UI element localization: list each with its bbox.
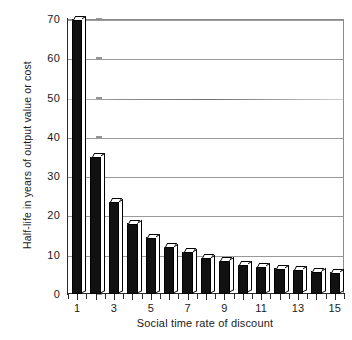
bar-side-face — [340, 269, 344, 293]
y-tick-label: 60 — [34, 52, 60, 64]
x-tick-mark-minor — [86, 294, 87, 299]
x-tick-mark-minor — [234, 294, 235, 299]
bar-front-face — [274, 268, 284, 294]
bar-side-face — [211, 255, 215, 293]
x-tick-mark — [261, 294, 262, 300]
bar-front-face — [90, 157, 100, 295]
bar-side-face — [248, 261, 252, 293]
x-tick-mark — [224, 294, 225, 300]
x-tick-mark — [132, 294, 133, 300]
y-tick-label: 20 — [34, 209, 60, 221]
x-tick-mark-minor — [289, 294, 290, 299]
x-tick-mark — [188, 294, 189, 300]
bar-side-face — [193, 249, 197, 293]
bar-series — [68, 19, 344, 294]
x-tick-mark — [280, 294, 281, 300]
bar-front-face — [219, 261, 229, 294]
bar-front-face — [293, 270, 303, 294]
bar-front-face — [146, 237, 156, 294]
bar-front-face — [311, 271, 321, 294]
x-tick-mark-minor — [307, 294, 308, 299]
bar — [164, 247, 174, 294]
y-tick-label: 0 — [34, 288, 60, 300]
bar-side-face — [322, 268, 326, 293]
x-tick-label: 5 — [148, 302, 154, 314]
x-tick-mark-minor — [105, 294, 106, 299]
x-tick-mark-minor — [215, 294, 216, 299]
x-tick-mark-minor — [68, 294, 69, 299]
bar-side-face — [101, 153, 105, 293]
x-tick-mark-minor — [326, 294, 327, 299]
bar-side-face — [230, 257, 234, 293]
bar-side-face — [82, 16, 86, 293]
x-tick-mark-minor — [142, 294, 143, 299]
bar — [109, 202, 119, 294]
bar — [90, 157, 100, 295]
x-axis-tick-marks — [68, 294, 348, 302]
x-tick-label: 13 — [292, 302, 305, 314]
bar-front-face — [182, 252, 192, 294]
bar — [127, 223, 137, 294]
y-tick-label: 50 — [34, 92, 60, 104]
x-tick-mark — [243, 294, 244, 300]
bar — [256, 267, 266, 295]
bar-front-face — [109, 202, 119, 294]
bar — [201, 258, 211, 294]
bar-side-face — [303, 266, 307, 293]
x-tick-mark — [316, 294, 317, 300]
x-tick-mark-minor — [197, 294, 198, 299]
chart-figure: Half-life in years of output value or co… — [0, 0, 352, 340]
bar-side-face — [156, 234, 160, 293]
bar-front-face — [201, 258, 211, 294]
bar-front-face — [72, 19, 82, 294]
x-tick-mark — [114, 294, 115, 300]
x-tick-mark — [169, 294, 170, 300]
x-tick-mark — [298, 294, 299, 300]
bar — [274, 268, 284, 294]
x-tick-mark — [151, 294, 152, 300]
x-tick-label: 9 — [221, 302, 227, 314]
x-tick-mark-minor — [344, 294, 345, 299]
x-tick-label: 7 — [184, 302, 190, 314]
bar-side-face — [138, 220, 142, 293]
bar-side-face — [285, 265, 289, 293]
x-tick-mark-minor — [270, 294, 271, 299]
y-tick-label: 10 — [34, 249, 60, 261]
bar-front-face — [256, 267, 266, 295]
bar — [293, 270, 303, 294]
y-axis-tick-labels: 010203040506070 — [34, 14, 60, 294]
bar-front-face — [164, 247, 174, 294]
bar — [311, 271, 321, 294]
x-tick-mark — [335, 294, 336, 300]
bar-side-face — [174, 244, 178, 293]
bar — [238, 265, 248, 294]
x-tick-mark — [206, 294, 207, 300]
x-axis-title: Social time rate of discount — [60, 317, 350, 329]
bar-front-face — [127, 223, 137, 294]
x-tick-mark — [77, 294, 78, 300]
x-tick-mark-minor — [160, 294, 161, 299]
y-tick-label: 40 — [34, 131, 60, 143]
bar-side-face — [119, 198, 123, 293]
bar-front-face — [238, 265, 248, 294]
x-tick-mark-minor — [123, 294, 124, 299]
bar-front-face — [330, 272, 340, 294]
x-tick-label: 3 — [111, 302, 117, 314]
x-axis-tick-labels: 13579111315 — [68, 302, 348, 316]
bar — [182, 252, 192, 294]
bar — [72, 19, 82, 294]
x-tick-mark-minor — [252, 294, 253, 299]
x-tick-mark-minor — [178, 294, 179, 299]
x-tick-label: 1 — [74, 302, 80, 314]
x-tick-label: 11 — [255, 302, 267, 314]
y-tick-label: 70 — [34, 13, 60, 25]
bar-side-face — [266, 263, 270, 293]
x-tick-mark — [96, 294, 97, 300]
bar — [219, 261, 229, 294]
y-tick-label: 30 — [34, 170, 60, 182]
bar — [146, 237, 156, 294]
bar — [330, 272, 340, 294]
x-tick-label: 15 — [328, 302, 341, 314]
